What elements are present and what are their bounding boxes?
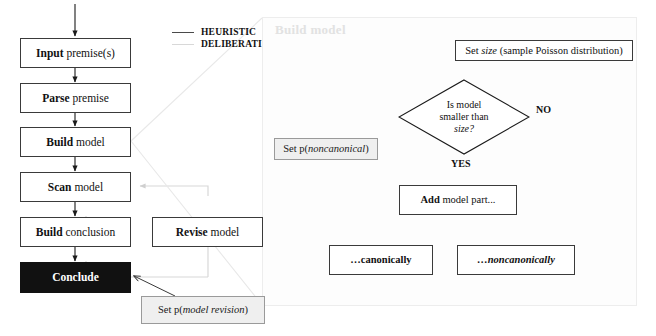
node-parse-rest: premise bbox=[70, 92, 109, 104]
param-set-size[interactable]: Set size (sample Poisson distribution) bbox=[455, 40, 633, 61]
branch-label-no: NO bbox=[536, 104, 551, 115]
param-set-p-model-revision[interactable]: Set p(model revision) bbox=[141, 296, 265, 324]
param-model-revision-pre: Set p( bbox=[158, 304, 183, 315]
node-conclude[interactable]: Conclude bbox=[20, 262, 131, 293]
node-revise-keyword: Revise bbox=[176, 226, 208, 238]
node-input-keyword: Input bbox=[36, 47, 64, 59]
node-build-model-rest: model bbox=[73, 136, 105, 148]
node-build-conclusion-rest: conclusion bbox=[63, 226, 116, 238]
param-noncanonical-pre: Set p( bbox=[283, 143, 308, 154]
node-conclude-label: Conclude bbox=[49, 271, 102, 284]
diagram-canvas: HEURISTIC DELIBERATIVE Build model Input… bbox=[0, 0, 656, 336]
legend-item-deliberative: DELIBERATIVE bbox=[172, 38, 276, 50]
node-canonically-label: …canonically bbox=[347, 254, 414, 266]
legend: HEURISTIC DELIBERATIVE bbox=[172, 26, 276, 50]
node-parse-premise[interactable]: Parse premise bbox=[20, 83, 131, 113]
decision-line-2: smaller than bbox=[439, 111, 488, 123]
node-build-conclusion[interactable]: Build conclusion bbox=[20, 217, 131, 247]
node-scan-keyword: Scan bbox=[48, 181, 72, 193]
param-noncanonical-em: noncanonical bbox=[308, 143, 365, 154]
node-revise-rest: model bbox=[208, 226, 240, 238]
set-size-em: size bbox=[481, 45, 497, 56]
legend-line-heuristic bbox=[172, 32, 194, 33]
decision-line-1: Is model bbox=[447, 99, 482, 111]
node-revise-model[interactable]: Revise model bbox=[152, 217, 263, 247]
set-size-pre: Set bbox=[465, 45, 481, 56]
node-noncanonically[interactable]: …noncanonically bbox=[457, 245, 575, 275]
add-part-rest: model part... bbox=[440, 194, 496, 205]
decision-is-model-smaller-than-size[interactable]: Is model smaller than size? bbox=[398, 79, 530, 155]
param-noncanonical-post: ) bbox=[365, 143, 369, 154]
node-scan-model[interactable]: Scan model bbox=[20, 172, 131, 202]
node-noncanonically-label: …noncanonically bbox=[474, 254, 558, 266]
node-input-premises[interactable]: Input premise(s) bbox=[20, 38, 131, 68]
legend-label-heuristic: HEURISTIC bbox=[201, 27, 256, 37]
add-part-keyword: Add bbox=[421, 194, 440, 205]
node-parse-keyword: Parse bbox=[42, 92, 69, 104]
node-build-model[interactable]: Build model bbox=[20, 127, 131, 157]
legend-item-heuristic: HEURISTIC bbox=[172, 26, 276, 38]
node-canonically[interactable]: …canonically bbox=[329, 245, 433, 275]
decision-line-3: size? bbox=[454, 123, 474, 135]
node-build-model-keyword: Build bbox=[46, 136, 73, 148]
legend-line-deliberative bbox=[172, 44, 194, 45]
node-build-conclusion-keyword: Build bbox=[36, 226, 63, 238]
node-input-rest: premise(s) bbox=[64, 47, 115, 59]
param-model-revision-post: ) bbox=[245, 304, 249, 315]
node-add-model-part[interactable]: Add model part... bbox=[399, 185, 517, 215]
param-set-p-noncanonical[interactable]: Set p(noncanonical) bbox=[274, 138, 378, 160]
set-size-post: (sample Poisson distribution) bbox=[497, 45, 623, 56]
node-scan-rest: model bbox=[72, 181, 104, 193]
param-model-revision-em: model revision bbox=[183, 304, 245, 315]
branch-label-yes: YES bbox=[451, 158, 470, 169]
panel-title: Build model bbox=[275, 22, 346, 38]
